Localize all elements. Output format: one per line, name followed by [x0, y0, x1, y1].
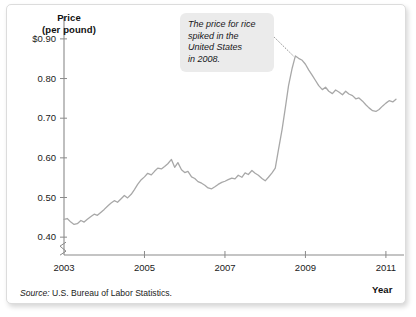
- x-tick-label: 2007: [205, 262, 245, 273]
- callout-leader-line: [272, 35, 293, 56]
- y-tick-label: 0.40: [12, 231, 56, 242]
- x-tick-label: 2009: [285, 262, 325, 273]
- y-tick-label: 0.50: [12, 192, 56, 203]
- x-tick-label: 2011: [366, 262, 406, 273]
- x-tick-label: 2003: [44, 262, 84, 273]
- source-label: Source:: [20, 288, 50, 298]
- y-axis-break-icon: [60, 242, 66, 255]
- callout-annotation-text: The price for rice spiked in the United …: [188, 19, 267, 65]
- y-tick-label: 0.60: [12, 152, 56, 163]
- price-line-series: [64, 56, 396, 225]
- figure-card: Price (per pound) Year 0.400.500.600.700…: [6, 4, 406, 304]
- y-tick-label: 0.70: [12, 112, 56, 123]
- y-tick-label: 0.80: [12, 73, 56, 84]
- source-note: Source: U.S. Bureau of Labor Statistics.: [20, 288, 172, 298]
- x-tick-label: 2005: [124, 262, 164, 273]
- callout-annotation-box: The price for rice spiked in the United …: [180, 13, 274, 72]
- y-axis-title-line1: Price: [38, 12, 100, 23]
- y-tick-label: $0.90: [12, 33, 56, 44]
- source-text: U.S. Bureau of Labor Statistics.: [50, 288, 172, 298]
- x-axis-title: Year: [372, 284, 392, 295]
